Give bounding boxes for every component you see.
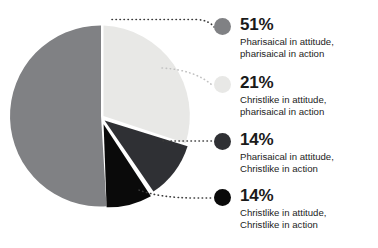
legend-item: 14% Pharisaical in attitude, Christlike … (214, 131, 334, 174)
legend-description-line1: Christlike in attitude, (240, 94, 326, 106)
legend-percent: 14% (240, 131, 334, 149)
legend-item: 14% Christlike in attitude, Christlike i… (214, 187, 326, 230)
legend-description-line1: Christlike in attitude, (240, 207, 326, 219)
legend-swatch-icon (214, 18, 231, 35)
legend-description-line2: pharisaical in action (240, 106, 326, 118)
chart-legend: 51% Pharisaical in attitude, pharisaical… (214, 0, 378, 248)
legend-text-group: 14% Pharisaical in attitude, Christlike … (240, 131, 334, 174)
legend-swatch-icon (214, 133, 231, 150)
legend-swatch-icon (214, 189, 231, 206)
pie-chart-figure: 51% Pharisaical in attitude, pharisaical… (0, 0, 378, 248)
legend-percent: 14% (240, 187, 326, 205)
legend-description-line2: Christlike in action (240, 219, 326, 231)
legend-text-group: 14% Christlike in attitude, Christlike i… (240, 187, 326, 230)
legend-text-group: 21% Christlike in attitude, pharisaical … (240, 74, 326, 117)
leader-line-4 (139, 190, 214, 198)
legend-percent: 21% (240, 74, 326, 92)
pie-slice-pharisaical-pharisaical (10, 25, 106, 206)
legend-item: 51% Pharisaical in attitude, pharisaical… (214, 16, 334, 59)
legend-swatch-icon (214, 76, 231, 93)
legend-description-line2: Christlike in action (240, 163, 334, 175)
legend-description-line2: pharisaical in action (240, 48, 334, 60)
legend-text-group: 51% Pharisaical in attitude, pharisaical… (240, 16, 334, 59)
legend-item: 21% Christlike in attitude, pharisaical … (214, 74, 326, 117)
legend-percent: 51% (240, 16, 334, 34)
leader-line-1 (112, 20, 214, 28)
legend-description-line1: Pharisaical in attitude, (240, 36, 334, 48)
legend-description-line1: Pharisaical in attitude, (240, 151, 334, 163)
